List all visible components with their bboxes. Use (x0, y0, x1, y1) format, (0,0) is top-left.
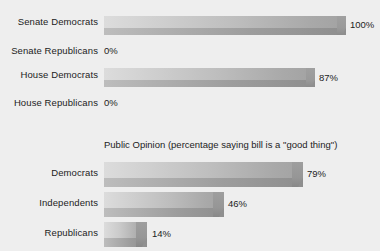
bar-value-label: 87% (319, 72, 338, 83)
row-label: Democrats (51, 167, 98, 178)
bar (104, 222, 147, 247)
bar-top-face (104, 222, 147, 247)
row-label: Senate Republicans (11, 45, 98, 56)
bar-bottom-face (104, 178, 303, 187)
bar-bottom-face (104, 208, 224, 217)
bar (104, 16, 346, 35)
bar-value-label: 0% (104, 45, 118, 56)
row-label: House Republicans (14, 97, 98, 108)
bar-value-label: 79% (307, 168, 326, 179)
bar-top-face (104, 68, 315, 87)
row-label: Senate Democrats (18, 16, 98, 27)
bar (104, 68, 315, 87)
row-label: Republicans (45, 227, 98, 238)
row-label: House Democrats (20, 69, 98, 80)
bar-top-face (104, 192, 224, 217)
bar-value-label: 14% (152, 228, 171, 239)
bar-chart: Senate Democrats 100% Senate Republicans… (0, 0, 380, 251)
bar-value-label: 100% (350, 19, 374, 30)
row-label: Independents (39, 197, 98, 208)
bar-value-label: 46% (228, 198, 247, 209)
group-subtitle: Public Opinion (percentage saying bill i… (104, 139, 337, 150)
bar-top-face (104, 162, 303, 187)
bar-bottom-face (104, 80, 315, 87)
bar-value-label: 0% (104, 97, 118, 108)
bar-bottom-face (104, 28, 346, 35)
bar (104, 192, 224, 217)
bar (104, 162, 303, 187)
bar-top-face (104, 16, 346, 35)
